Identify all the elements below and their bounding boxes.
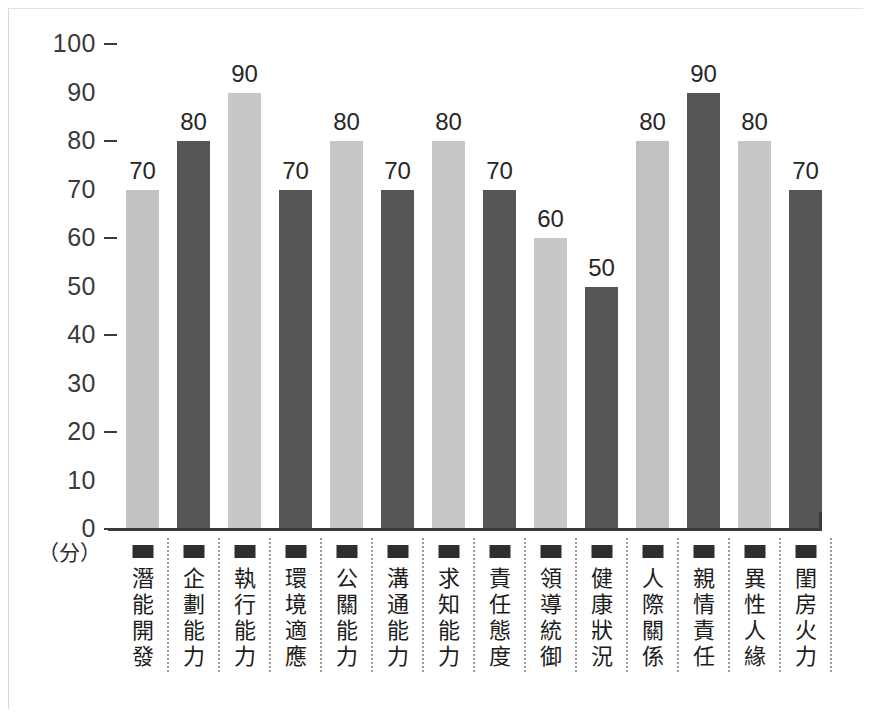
bar-value-label: 80 [639, 109, 666, 135]
bar-value-label: 80 [435, 109, 462, 135]
category-label-cell: 企劃能力 [168, 534, 219, 684]
bar-value-label: 90 [690, 61, 717, 87]
category-label-text: 人際關係 [639, 566, 667, 670]
category-label-cell: 親情責任 [678, 534, 729, 684]
category-label-text: 閨房火力 [792, 566, 820, 670]
y-axis-unit-label: （分） [38, 541, 101, 565]
category-label-cell: 公關能力 [321, 534, 372, 684]
bar: 80 [432, 141, 465, 529]
y-axis-tick-label: 80 [36, 126, 96, 154]
category-label-text: 執行能力 [231, 566, 259, 670]
category-label-cell: 健康狀況 [576, 534, 627, 684]
bar-value-label: 80 [333, 109, 360, 135]
category-label-text: 公關能力 [333, 566, 361, 670]
category-label-cell: 閨房火力 [780, 534, 831, 684]
x-axis-end-tick [819, 512, 822, 531]
category-divider [473, 538, 475, 672]
category-label-cell: 求知能力 [423, 534, 474, 684]
category-label-cell: 異性人緣 [729, 534, 780, 684]
bar-value-label: 70 [282, 158, 309, 184]
y-axis-tick-label: 10 [36, 466, 96, 494]
bar: 90 [687, 93, 720, 530]
category-divider [677, 538, 679, 672]
legend-swatch-icon [336, 545, 357, 558]
category-label-text: 求知能力 [435, 566, 463, 670]
bar: 50 [585, 287, 618, 530]
bar-value-label: 50 [588, 255, 615, 281]
bar: 80 [636, 141, 669, 529]
category-divider [830, 538, 832, 672]
bar: 70 [483, 190, 516, 530]
legend-swatch-icon [795, 545, 816, 558]
y-axis-tick-label: 100 [36, 29, 96, 57]
legend-swatch-icon [540, 545, 561, 558]
legend-swatch-icon [285, 545, 306, 558]
category-label-cell: 溝通能力 [372, 534, 423, 684]
category-divider [728, 538, 730, 672]
bar-value-label: 70 [384, 158, 411, 184]
category-label-text: 健康狀況 [588, 566, 616, 670]
bar: 70 [789, 190, 822, 530]
category-label-text: 異性人緣 [741, 566, 769, 670]
y-axis-tick-label: 30 [36, 369, 96, 397]
y-axis-tick-label: 0 [36, 514, 96, 542]
category-label-text: 責任態度 [486, 566, 514, 670]
bar: 60 [534, 238, 567, 529]
bar: 80 [330, 141, 363, 529]
legend-swatch-icon [693, 545, 714, 558]
category-label-text: 親情責任 [690, 566, 718, 670]
bar-value-label: 80 [180, 109, 207, 135]
y-axis-tick-label: 60 [36, 223, 96, 251]
category-divider [167, 538, 169, 672]
bar-chart: 1009080706050403020100 70809070807080706… [0, 0, 871, 717]
x-axis-baseline [108, 528, 822, 531]
bar: 70 [126, 190, 159, 530]
category-divider [218, 538, 220, 672]
category-divider [422, 538, 424, 672]
legend-swatch-icon [744, 545, 765, 558]
category-label-cell: 潛能開發 [117, 534, 168, 684]
category-label-text: 企劃能力 [180, 566, 208, 670]
category-label-text: 環境適應 [282, 566, 310, 670]
category-label-text: 溝通能力 [384, 566, 412, 670]
bar-value-label: 60 [537, 206, 564, 232]
bar: 80 [177, 141, 210, 529]
legend-swatch-icon [489, 545, 510, 558]
plot-area: 7080907080708070605080908070 [108, 44, 822, 529]
category-label-text: 潛能開發 [129, 566, 157, 670]
bar-value-label: 70 [792, 158, 819, 184]
category-label-cell: 人際關係 [627, 534, 678, 684]
category-label-text: 領導統御 [537, 566, 565, 670]
y-axis-tick-label: 40 [36, 320, 96, 348]
legend-swatch-icon [591, 545, 612, 558]
bar: 80 [738, 141, 771, 529]
bar: 90 [228, 93, 261, 530]
category-divider [320, 538, 322, 672]
y-axis-tick-label: 90 [36, 78, 96, 106]
legend-swatch-icon [234, 545, 255, 558]
bar-value-label: 70 [486, 158, 513, 184]
bar-value-label: 80 [741, 109, 768, 135]
category-divider [779, 538, 781, 672]
category-label-cell: 責任態度 [474, 534, 525, 684]
category-divider [371, 538, 373, 672]
category-divider [575, 538, 577, 672]
category-divider [524, 538, 526, 672]
y-axis-tick-label: 70 [36, 175, 96, 203]
bar: 70 [279, 190, 312, 530]
legend-swatch-icon [642, 545, 663, 558]
category-label-cell: 領導統御 [525, 534, 576, 684]
category-divider [269, 538, 271, 672]
legend-swatch-icon [438, 545, 459, 558]
legend-swatch-icon [387, 545, 408, 558]
bar-value-label: 90 [231, 61, 258, 87]
y-axis-tick-label: 50 [36, 272, 96, 300]
category-label-cell: 執行能力 [219, 534, 270, 684]
legend-swatch-icon [183, 545, 204, 558]
bar: 70 [381, 190, 414, 530]
category-label-cell: 環境適應 [270, 534, 321, 684]
bar-value-label: 70 [129, 158, 156, 184]
legend-swatch-icon [132, 545, 153, 558]
category-label-strip: 潛能開發企劃能力執行能力環境適應公關能力溝通能力求知能力責任態度領導統御健康狀況… [108, 534, 822, 684]
category-divider [626, 538, 628, 672]
